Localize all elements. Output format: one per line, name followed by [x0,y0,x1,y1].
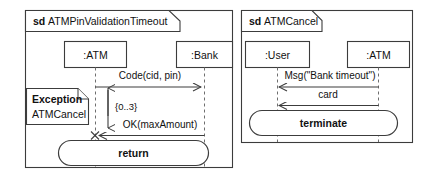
lifeline-label-user: :User [265,49,291,61]
message-label-code: Code(cid, pin) [119,70,181,81]
note-title-exception: Exception [32,93,82,105]
frame-name-left: ATMPinValidationTimeout [48,15,168,27]
loop-constraint-label: {0..3} [115,101,137,112]
frame-keyword-right: sd [249,15,261,27]
sequence-diagram-canvas: sd ATMPinValidationTimeout :ATM :Bank Co… [0,0,428,180]
frame-name-right: ATMCancel [264,15,318,27]
note-exception[interactable]: Exception ATMCancel [27,89,89,125]
action-label-return: return [118,147,148,159]
note-body-atmcancel: ATMCancel [32,108,86,120]
frame-atm-cancel: sd ATMCancel :User :ATM Msg("Bank timeou… [242,11,413,143]
frame-keyword-left: sd [33,15,45,27]
lifeline-label-atm: :ATM [83,49,107,61]
lifeline-label-bank: :Bank [191,49,219,61]
message-label-ok: OK(maxAmount) [123,119,197,130]
message-label-card: card [318,89,337,100]
lifeline-label-atm-right: :ATM [366,49,390,61]
frame-atm-pin-validation-timeout: sd ATMPinValidationTimeout :ATM :Bank Co… [26,11,233,168]
action-label-terminate: terminate [300,117,347,129]
message-label-msg: Msg("Bank timeout") [284,70,375,81]
